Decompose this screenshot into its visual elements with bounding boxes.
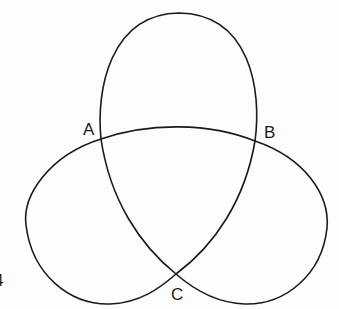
diagram-canvas: A B C 4 xyxy=(0,0,339,309)
left-lobe xyxy=(26,139,176,304)
label-b: B xyxy=(264,124,275,141)
trefoil-curve xyxy=(0,0,339,309)
label-c: C xyxy=(171,286,183,303)
upper-arc-a-to-b xyxy=(101,127,255,141)
top-loop xyxy=(100,13,257,141)
label-a: A xyxy=(83,121,94,138)
inner-arc-a-to-c xyxy=(101,139,176,274)
right-lobe xyxy=(176,141,327,304)
edge-fragment-number: 4 xyxy=(0,272,3,289)
inner-arc-b-to-c xyxy=(176,141,255,274)
